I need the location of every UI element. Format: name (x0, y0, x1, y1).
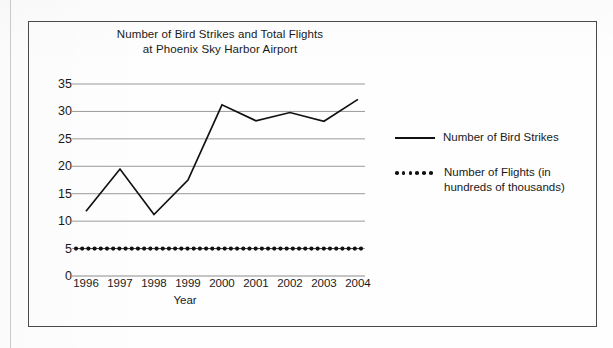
legend-solid-line-icon (394, 131, 436, 145)
legend-item-flights: Number of Flights (in hundreds of thousa… (394, 165, 594, 194)
chart-title: Number of Bird Strikes and Total Flights… (60, 27, 380, 57)
chart-title-line-1: Number of Bird Strikes and Total Flights (117, 28, 323, 40)
legend-label-bird-strikes: Number of Bird Strikes (443, 130, 559, 145)
legend-label-flights: Number of Flights (in hundreds of thousa… (444, 165, 565, 194)
legend-label-flights-line-1: Number of Flights (in (444, 166, 551, 178)
legend-dotted-line-icon (394, 166, 437, 180)
chart-title-line-2: at Phoenix Sky Harbor Airport (60, 42, 380, 57)
chart-legend: Number of Bird Strikes Number of Flights… (394, 130, 594, 214)
legend-item-bird-strikes: Number of Bird Strikes (394, 130, 594, 145)
legend-label-flights-line-2: hundreds of thousands) (444, 180, 565, 195)
x-axis-title: Year (0, 294, 370, 306)
